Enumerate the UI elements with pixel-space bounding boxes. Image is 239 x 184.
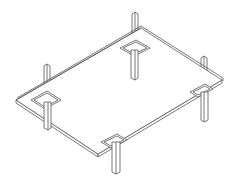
plate-with-posts-illustration (0, 0, 239, 184)
diagram-canvas (0, 0, 239, 184)
leg-right (201, 92, 208, 122)
leg-back (131, 50, 138, 80)
leg-left (44, 102, 51, 130)
leg-front (112, 142, 120, 174)
